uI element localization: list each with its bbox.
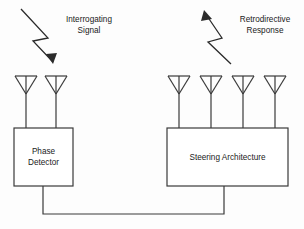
antenna-icon [264, 76, 286, 128]
antenna-icon [168, 76, 190, 128]
interrogating-signal-arrow-icon [21, 9, 57, 64]
interrogating-signal-label-line2: Signal [78, 26, 101, 35]
diagram-canvas: Interrogating Signal Retrodirective Resp… [0, 0, 304, 229]
antenna-icon [15, 76, 37, 128]
retrodirective-response-label-line1: Retrodirective [240, 15, 291, 24]
antenna-icon [45, 76, 67, 128]
retrodirective-response-label-line2: Response [247, 26, 284, 35]
phase-detector-block [14, 128, 73, 186]
retrodirective-response-arrow-icon [201, 10, 231, 64]
retrodirective-array-diagram: Interrogating Signal Retrodirective Resp… [0, 0, 304, 229]
interconnect-bus [43, 186, 224, 214]
phase-detector-label-line2: Detector [28, 158, 59, 167]
interrogating-signal-label-line1: Interrogating [66, 15, 112, 24]
antenna-icon [200, 76, 222, 128]
steering-architecture-label-line1: Steering Architecture [189, 153, 265, 162]
antenna-icon [232, 76, 254, 128]
phase-detector-label-line1: Phase [32, 147, 56, 156]
